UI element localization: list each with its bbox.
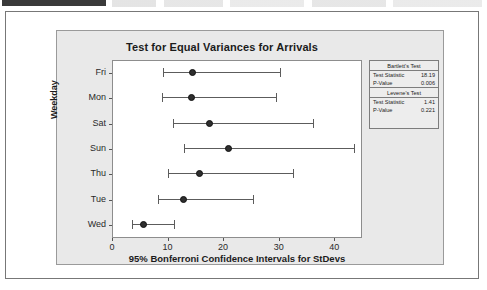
levene-test-title: Levene's Test — [370, 88, 438, 97]
levene-test-statistic-value: 1.41 — [424, 99, 435, 105]
interval-lower-cap — [168, 169, 169, 178]
redaction-block — [2, 0, 106, 6]
x-tick-label-20: 20 — [211, 242, 235, 252]
interval-center-marker — [206, 120, 213, 127]
x-tick-label-0: 0 — [100, 242, 124, 252]
interval-upper-cap — [253, 195, 254, 204]
interval-upper-cap — [354, 144, 355, 153]
interval-center-marker — [140, 221, 147, 228]
bartlett-p-value-row: P-Value 0.006 — [370, 79, 438, 87]
interval-line — [162, 97, 276, 98]
levene-p-value: 0.221 — [421, 107, 435, 113]
interval-lower-cap — [184, 144, 185, 153]
figure-outer-frame: Test for Equal Variances for Arrivals We… — [5, 11, 479, 279]
interval-center-marker — [188, 94, 195, 101]
interval-center-marker — [225, 145, 232, 152]
x-tick-label-30: 30 — [267, 242, 291, 252]
interval-upper-cap — [174, 220, 175, 229]
interval-line — [184, 148, 353, 149]
document-top-strip — [0, 0, 487, 10]
x-tick-label-40: 40 — [322, 242, 346, 252]
bartlett-test-statistic-label: Test Statistic — [373, 72, 404, 78]
bartlett-test-title: Bartlett's Test — [370, 61, 438, 70]
confidence-interval-thu — [57, 168, 443, 180]
interval-line — [132, 224, 174, 225]
interval-lower-cap — [132, 220, 133, 229]
minitab-graph-panel[interactable]: Test for Equal Variances for Arrivals We… — [56, 30, 444, 265]
bartlett-test-statistic-row: Test Statistic 18.19 — [370, 71, 438, 79]
x-tick-mark — [334, 238, 335, 241]
interval-upper-cap — [313, 119, 314, 128]
bartlett-test-statistic-value: 18.19 — [421, 72, 435, 78]
interval-line — [158, 199, 252, 200]
levene-p-value-label: P-Value — [373, 107, 393, 113]
interval-upper-cap — [280, 68, 281, 77]
x-tick-label-10: 10 — [156, 242, 180, 252]
levene-p-value-row: P-Value 0.221 — [370, 106, 438, 114]
levene-test-statistic-row: Test Statistic 1.41 — [370, 98, 438, 106]
interval-lower-cap — [163, 68, 164, 77]
interval-line — [163, 72, 280, 73]
interval-upper-cap — [293, 169, 294, 178]
interval-lower-cap — [173, 119, 174, 128]
chart-title: Test for Equal Variances for Arrivals — [57, 41, 387, 53]
x-tick-mark — [112, 238, 113, 241]
interval-lower-cap — [162, 93, 163, 102]
levene-test-statistic-label: Test Statistic — [373, 99, 404, 105]
interval-center-marker — [196, 170, 203, 177]
interval-upper-cap — [276, 93, 277, 102]
confidence-interval-wed — [57, 219, 443, 231]
confidence-interval-tue — [57, 194, 443, 206]
x-tick-mark — [279, 238, 280, 241]
statistics-annotation-box: Bartlett's Test Test Statistic 18.19 P-V… — [369, 60, 439, 129]
interval-lower-cap — [158, 195, 159, 204]
interval-center-marker — [180, 196, 187, 203]
x-axis-title: 95% Bonferroni Confidence Intervals for … — [77, 253, 397, 264]
interval-line — [173, 123, 313, 124]
interval-center-marker — [189, 69, 196, 76]
bartlett-p-value-label: P-Value — [373, 80, 393, 86]
bartlett-p-value: 0.006 — [421, 80, 435, 86]
x-tick-mark — [223, 238, 224, 241]
confidence-interval-sun — [57, 143, 443, 155]
x-tick-mark — [168, 238, 169, 241]
interval-line — [168, 173, 293, 174]
faint-header-text — [112, 0, 482, 7]
